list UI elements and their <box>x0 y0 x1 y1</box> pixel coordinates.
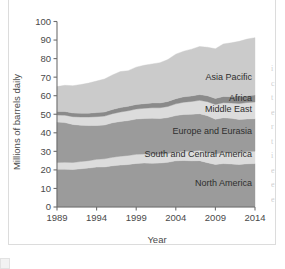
series-label-north-america: North America <box>195 178 252 188</box>
bleed-glyph: t <box>271 135 285 150</box>
y-tick-label: 30 <box>40 146 51 157</box>
x-tick-label: 2009 <box>205 212 226 223</box>
bleed-glyph: e <box>271 164 285 179</box>
bleed-glyph: c <box>271 77 285 92</box>
bleed-glyph: i <box>271 149 285 164</box>
bleed-glyph: e <box>271 178 285 193</box>
bleed-glyph: e <box>271 106 285 121</box>
y-tick-label: 10 <box>40 183 51 194</box>
y-tick-label: 100 <box>35 16 51 27</box>
corner-artifact <box>0 258 10 269</box>
x-tick-label: 1999 <box>126 212 147 223</box>
y-tick-label: 40 <box>40 127 51 138</box>
chart-figure: 0102030405060708090100 19891994199920042… <box>0 0 285 269</box>
right-edge-bleed-text: ictertieee <box>271 62 285 214</box>
x-axis-title: Year <box>147 234 166 245</box>
bleed-glyph: i <box>271 62 285 77</box>
series-label-asia-pacific: Asia Pacific <box>205 72 252 82</box>
y-tick-label: 0 <box>46 201 51 212</box>
y-tick-label-group: 0102030405060708090100 <box>35 16 51 213</box>
plot-area: 0102030405060708090100 19891994199920042… <box>0 0 285 269</box>
bleed-glyph: t <box>271 91 285 106</box>
series-label-africa: Africa <box>229 93 252 103</box>
y-tick-label: 50 <box>40 109 51 120</box>
series-label-south-and-central-america: South and Central America <box>144 149 252 159</box>
y-axis-title: Millions of barrels daily <box>11 74 22 170</box>
y-tick-label: 20 <box>40 164 51 175</box>
x-tick-label: 2014 <box>244 212 265 223</box>
y-tick-label: 90 <box>40 34 51 45</box>
series-label-europe-and-eurasia: Europe and Eurasia <box>172 126 252 136</box>
x-tick-label-group: 198919941999200420092014 <box>46 212 265 223</box>
y-tick-label: 70 <box>40 72 51 83</box>
stacked-area-chart-svg: 0102030405060708090100 19891994199920042… <box>0 0 285 269</box>
x-tick-label: 1989 <box>46 212 67 223</box>
x-tick-label: 2004 <box>165 212 186 223</box>
bleed-glyph: e <box>271 193 285 208</box>
x-tick-label: 1994 <box>86 212 107 223</box>
bleed-glyph: r <box>271 120 285 135</box>
series-label-middle-east: Middle East <box>205 104 253 114</box>
y-tick-label: 80 <box>40 53 51 64</box>
y-tick-label: 60 <box>40 90 51 101</box>
